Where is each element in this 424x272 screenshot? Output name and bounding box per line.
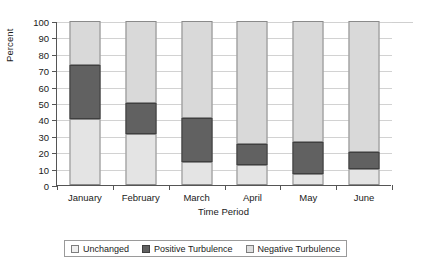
- bar-segment[interactable]: [349, 169, 380, 185]
- legend-item[interactable]: Positive Turbulence: [142, 244, 233, 254]
- y-axis-tick-label: 70: [38, 66, 49, 77]
- bar-segment[interactable]: [125, 103, 156, 134]
- gridline: [57, 71, 392, 72]
- gridline: [57, 38, 392, 39]
- bar-segment[interactable]: [181, 21, 212, 118]
- x-axis-tick-label: February: [122, 192, 160, 203]
- gridline: [57, 88, 392, 89]
- bar-segment[interactable]: [69, 65, 100, 119]
- bar-segment[interactable]: [125, 134, 156, 185]
- y-axis-tick: [52, 104, 57, 105]
- y-axis-tick-label: 100: [33, 17, 49, 28]
- gridline: [57, 55, 392, 56]
- bar-march[interactable]: [181, 21, 212, 185]
- legend-item-label: Unchanged: [83, 244, 129, 254]
- legend-item[interactable]: Negative Turbulence: [246, 244, 341, 254]
- y-axis-tick: [52, 120, 57, 121]
- x-axis-tick-label: January: [68, 192, 102, 203]
- gridline: [57, 137, 392, 138]
- y-axis-tick-label: 0: [44, 181, 49, 192]
- y-axis-tick-label: 40: [38, 115, 49, 126]
- gridline: [57, 22, 392, 23]
- bar-segment[interactable]: [181, 118, 212, 162]
- gridline: [57, 153, 392, 154]
- bar-segment[interactable]: [125, 21, 156, 103]
- y-axis-tick-label: 20: [38, 148, 49, 159]
- x-axis-tick-label: June: [354, 192, 375, 203]
- bar-segment[interactable]: [349, 21, 380, 152]
- bar-segment[interactable]: [237, 21, 268, 144]
- y-axis-tick: [52, 170, 57, 171]
- bar-segment[interactable]: [293, 21, 324, 142]
- y-axis-tick-label: 60: [38, 82, 49, 93]
- y-axis-tick: [52, 88, 57, 89]
- y-axis-tick: [52, 22, 57, 23]
- legend-item-label: Negative Turbulence: [258, 244, 341, 254]
- bar-segment[interactable]: [237, 144, 268, 165]
- dark-gray-swatch: [142, 245, 150, 253]
- pale-gray-swatch: [246, 245, 254, 253]
- legend-item-label: Positive Turbulence: [154, 244, 233, 254]
- y-axis-tick: [52, 71, 57, 72]
- x-axis-tick-label: March: [183, 192, 209, 203]
- light-gray-swatch: [71, 245, 79, 253]
- x-axis-tick-label: May: [299, 192, 317, 203]
- x-axis-tick: [169, 185, 170, 190]
- x-axis-title: Time Period: [56, 206, 391, 217]
- gridline: [57, 170, 392, 171]
- x-axis-tick: [113, 185, 114, 190]
- y-axis-tick-label: 80: [38, 49, 49, 60]
- bar-segment[interactable]: [69, 21, 100, 65]
- x-axis-tick: [225, 185, 226, 190]
- x-axis-tick: [57, 185, 58, 190]
- y-axis-tick: [52, 137, 57, 138]
- bar-segment[interactable]: [69, 119, 100, 185]
- gridline: [57, 120, 392, 121]
- bar-segment[interactable]: [293, 174, 324, 185]
- legend-item[interactable]: Unchanged: [71, 244, 129, 254]
- bar-segment[interactable]: [181, 162, 212, 185]
- y-axis-tick-label: 90: [38, 33, 49, 44]
- bar-segment[interactable]: [293, 142, 324, 173]
- x-axis-tick: [392, 185, 393, 190]
- bar-june[interactable]: [349, 21, 380, 185]
- bar-segment[interactable]: [349, 152, 380, 168]
- x-axis-tick-label: April: [243, 192, 262, 203]
- stacked-bar-chart-figure: Percent 0102030405060708090100 JanuaryFe…: [0, 0, 424, 272]
- bar-february[interactable]: [125, 21, 156, 185]
- gridline: [57, 104, 392, 105]
- y-axis-tick-label: 10: [38, 164, 49, 175]
- y-axis-tick-label: 30: [38, 131, 49, 142]
- bar-april[interactable]: [237, 21, 268, 185]
- plot-area: 0102030405060708090100 JanuaryFebruaryMa…: [56, 22, 391, 186]
- y-axis-tick-label: 50: [38, 99, 49, 110]
- x-axis-tick: [336, 185, 337, 190]
- bar-segment[interactable]: [237, 165, 268, 186]
- y-axis-tick: [52, 38, 57, 39]
- chart-legend: UnchangedPositive TurbulenceNegative Tur…: [64, 240, 347, 257]
- y-axis-tick: [52, 55, 57, 56]
- bar-may[interactable]: [293, 21, 324, 185]
- bar-january[interactable]: [69, 21, 100, 185]
- y-axis-tick: [52, 153, 57, 154]
- y-axis-title: Percent: [4, 48, 15, 62]
- x-axis-tick: [280, 185, 281, 190]
